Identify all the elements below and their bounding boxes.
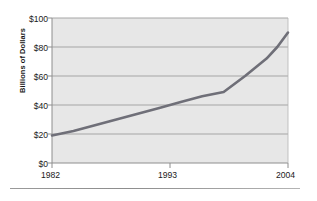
line-chart-figure: Billions of Dollars $100 $80 $60 $40 $20…: [0, 0, 317, 201]
x-tick-marks: [52, 163, 288, 168]
plot-background: [52, 18, 288, 163]
x-tick-label: 1982: [41, 171, 60, 180]
bottom-divider: [10, 188, 300, 189]
x-tick-label: 1993: [158, 171, 177, 180]
x-tick-label: 2004: [276, 171, 295, 180]
y-tick-marks: [47, 18, 52, 163]
